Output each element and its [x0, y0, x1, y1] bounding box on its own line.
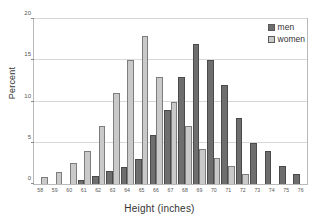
x-axis-title: Height (inches): [0, 203, 319, 214]
y-axis-tick-label: 20: [24, 10, 31, 16]
x-axis-tick-label: 60: [62, 187, 76, 193]
x-axis-tick-label: 69: [192, 187, 206, 193]
bar-group: [77, 19, 91, 184]
bar-women-68: [185, 126, 192, 184]
y-axis-tick-label: 5: [28, 134, 31, 140]
bar-women-61: [84, 151, 91, 184]
bar-groups: [34, 19, 307, 184]
bar-women-72: [242, 174, 249, 184]
x-axis-tick-label: 73: [250, 187, 264, 193]
bar-women-70: [214, 158, 221, 184]
bar-group: [120, 19, 134, 184]
bar-women-59: [56, 172, 63, 184]
legend-label-men: men: [278, 22, 295, 32]
bar-women-58: [41, 177, 48, 184]
legend-swatch-men-icon: [268, 24, 275, 31]
bar-men-63: [106, 171, 113, 184]
legend-item-men: men: [268, 22, 305, 32]
bar-men-69: [193, 44, 200, 184]
bar-men-61: [78, 180, 85, 184]
x-axis-tick-label: 67: [163, 187, 177, 193]
height-distribution-chart: Percent 05101520 58596061626364656667686…: [0, 0, 319, 223]
bar-group: [178, 19, 192, 184]
y-axis-tick-label: 10: [24, 93, 31, 99]
x-axis-tick-label: 63: [105, 187, 119, 193]
x-axis-tick-label: 74: [265, 187, 279, 193]
x-axis-tick-label: 65: [134, 187, 148, 193]
bar-group: [149, 19, 163, 184]
x-axis-tick-label: 61: [76, 187, 90, 193]
bar-men-64: [121, 167, 128, 184]
bar-men-75: [279, 166, 286, 184]
bar-women-67: [171, 102, 178, 185]
bar-group: [63, 19, 77, 184]
bar-group: [250, 19, 264, 184]
bar-group: [221, 19, 235, 184]
x-axis-tick-label: 62: [91, 187, 105, 193]
bar-women-69: [199, 149, 206, 184]
bar-men-76: [293, 174, 300, 184]
bar-women-62: [99, 126, 106, 184]
x-axis-tick-label: 75: [279, 187, 293, 193]
y-axis-title: Percent: [7, 53, 17, 113]
bar-men-72: [236, 118, 243, 184]
bar-men-73: [250, 143, 257, 184]
bar-group: [106, 19, 120, 184]
x-axis-tick-label: 68: [178, 187, 192, 193]
bar-men-71: [221, 85, 228, 184]
x-axis-tick-label: 59: [47, 187, 61, 193]
bar-group: [92, 19, 106, 184]
bar-group: [163, 19, 177, 184]
bar-group: [135, 19, 149, 184]
bar-group: [235, 19, 249, 184]
bar-men-74: [265, 151, 272, 184]
x-axis-tick-label: 76: [293, 187, 307, 193]
bar-men-62: [92, 176, 99, 184]
bar-men-70: [207, 60, 214, 184]
x-axis-tick-label: 72: [236, 187, 250, 193]
bar-group: [192, 19, 206, 184]
legend-item-women: women: [268, 34, 305, 44]
bar-men-65: [135, 159, 142, 184]
y-axis-tick-label: 15: [24, 51, 31, 57]
x-axis-tick-label: 71: [221, 187, 235, 193]
bar-women-71: [228, 166, 235, 184]
bar-men-68: [178, 77, 185, 184]
x-axis-tick-label: 66: [149, 187, 163, 193]
x-axis-tick-labels: 58596061626364656667686970717273747576: [33, 187, 308, 193]
legend-swatch-women-icon: [268, 36, 275, 43]
bar-women-64: [127, 60, 134, 184]
chart-legend: men women: [268, 22, 305, 44]
bar-men-67: [164, 110, 171, 184]
bar-group: [48, 19, 62, 184]
bar-women-60: [70, 163, 77, 184]
x-axis-tick-label: 64: [120, 187, 134, 193]
legend-label-women: women: [278, 34, 305, 44]
bar-women-65: [142, 36, 149, 185]
bar-group: [34, 19, 48, 184]
y-axis-tick-label: 0: [28, 175, 31, 181]
bar-women-66: [156, 77, 163, 184]
x-axis-tick-label: 70: [207, 187, 221, 193]
bar-women-63: [113, 93, 120, 184]
bar-men-66: [150, 135, 157, 185]
x-axis-tick-label: 58: [33, 187, 47, 193]
bar-group: [207, 19, 221, 184]
